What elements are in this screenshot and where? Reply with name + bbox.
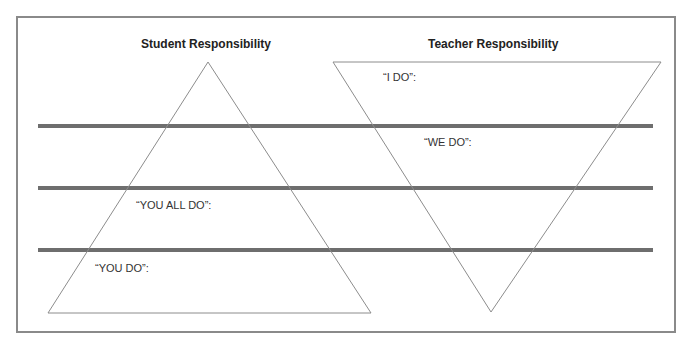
stage-label-you-all-do: “YOU ALL DO”:: [136, 199, 211, 211]
divider-line-1: [38, 124, 653, 128]
stage-label-we-do: “WE DO”:: [424, 136, 472, 148]
gradual-release-diagram: [0, 0, 687, 346]
stage-label-i-do: “I DO”:: [383, 71, 416, 83]
student-responsibility-title: Student Responsibility: [141, 37, 271, 51]
stage-label-you-do: “YOU DO”:: [95, 262, 149, 274]
teacher-responsibility-title: Teacher Responsibility: [428, 37, 558, 51]
divider-line-3: [38, 248, 653, 252]
divider-lines: [38, 124, 653, 252]
divider-line-2: [38, 186, 653, 190]
